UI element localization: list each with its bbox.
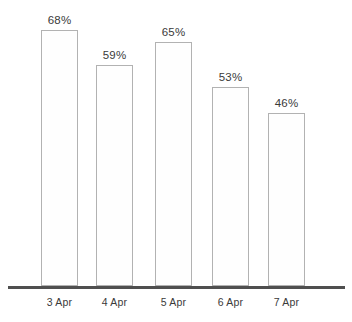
x-axis-tick-label: 5 Apr (155, 296, 192, 308)
bar-rect[interactable] (212, 87, 249, 286)
x-axis-tick-label: 7 Apr (268, 296, 305, 308)
bar-value-label: 65% (162, 26, 186, 38)
bar-rect[interactable] (155, 42, 192, 286)
bar-rect[interactable] (41, 30, 78, 286)
bar-group[interactable]: 68% (41, 30, 78, 286)
x-axis-line (8, 286, 345, 289)
bar-value-label: 59% (103, 49, 127, 61)
x-axis-tick-label: 6 Apr (212, 296, 249, 308)
bar-group[interactable]: 53% (212, 87, 249, 286)
x-axis-tick-label: 4 Apr (96, 296, 133, 308)
bar-rect[interactable] (96, 65, 133, 286)
bar-group[interactable]: 46% (268, 113, 305, 286)
bar-chart: 68% 59% 65% 53% 46% 3 Apr 4 Apr 5 Apr 6 … (0, 0, 352, 322)
bar-value-label: 53% (219, 71, 243, 83)
plot-area: 68% 59% 65% 53% 46% 3 Apr 4 Apr 5 Apr 6 … (0, 0, 352, 322)
bar-rect[interactable] (268, 113, 305, 286)
bar-value-label: 68% (48, 14, 72, 26)
bar-value-label: 46% (275, 97, 299, 109)
bar-group[interactable]: 65% (155, 42, 192, 286)
bar-group[interactable]: 59% (96, 65, 133, 286)
x-axis-tick-label: 3 Apr (41, 296, 78, 308)
